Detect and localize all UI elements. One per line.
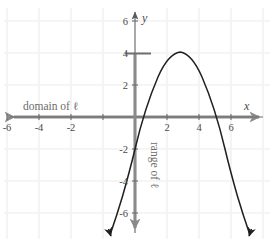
y-tick-label-4: 4 (123, 48, 129, 59)
y-tick-label-2: 2 (123, 80, 128, 91)
range-label: range of ℓ (148, 142, 161, 188)
y-tick-label-neg2: -2 (119, 144, 128, 155)
graph-figure: -6 -4 -2 2 4 6 6 4 2 -2 -4 -6 y x domain… (0, 0, 273, 243)
coordinate-plane: -6 -4 -2 2 4 6 6 4 2 -2 -4 -6 y x domain… (0, 0, 273, 243)
x-tick-label-4: 4 (196, 122, 202, 133)
y-tick-label-neg4: -4 (119, 176, 128, 187)
x-tick-label-neg2: -2 (67, 122, 76, 133)
x-tick-label-neg4: -4 (35, 122, 44, 133)
y-tick-label-6: 6 (123, 16, 128, 27)
domain-label: domain of ℓ (23, 100, 78, 112)
x-tick-label-neg6: -6 (3, 122, 12, 133)
x-tick-label-2: 2 (164, 122, 169, 133)
x-tick-label-6: 6 (228, 122, 233, 133)
parabola-curve (110, 52, 250, 234)
x-axis-label: x (243, 99, 250, 113)
y-tick-label-neg6: -6 (119, 208, 128, 219)
y-axis-label: y (141, 11, 148, 25)
